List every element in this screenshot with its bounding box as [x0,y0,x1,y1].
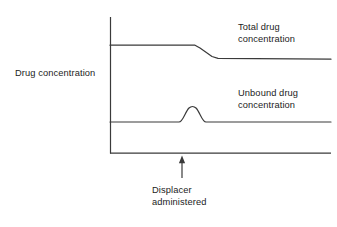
series-label-total-drug-concentration: Total drug concentration [238,21,295,45]
displacer-arrow-icon [179,156,185,179]
series-line-total-drug-concentration [110,45,331,59]
pharmacokinetics-displacement-figure: Drug concentration Total drug concentrat… [0,0,337,227]
y-axis-label: Drug concentration [15,67,95,79]
series-label-unbound-drug-concentration: Unbound drug concentration [238,87,298,111]
displacer-administered-label: Displacer administered [152,184,206,208]
